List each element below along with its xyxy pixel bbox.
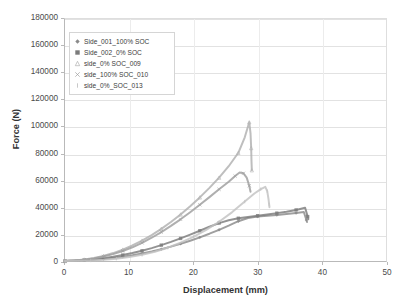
series-marker (121, 253, 124, 256)
legend-item-label: side_0%_SOC_013 (84, 81, 143, 90)
y-axis-tick-label: 140000 (2, 67, 58, 76)
series-line (65, 173, 251, 261)
x-axis-tick-label: 20 (178, 268, 208, 277)
series-line (65, 122, 252, 261)
x-axis-tick-mark (193, 262, 194, 265)
x-axis-tick-label: 0 (49, 268, 79, 277)
diamond-marker-icon (73, 37, 82, 46)
series-marker (275, 211, 278, 214)
y-axis-tick-label: 40000 (2, 203, 58, 212)
series-curve (63, 172, 251, 263)
y-axis-title: Force (N) (11, 89, 21, 169)
square-marker-icon (73, 48, 82, 57)
x-axis-title: Displacement (mm) (64, 285, 387, 295)
legend-item-label: Side_002_0% SOC (84, 48, 142, 57)
legend-item[interactable]: side_0% SOC_009 (73, 58, 170, 69)
x-axis-tick-mark (129, 262, 130, 265)
series-marker (294, 208, 297, 211)
x-axis-tick-label: 40 (307, 268, 337, 277)
x-axis-tick-mark (387, 262, 388, 265)
y-axis-tick-label: 20000 (2, 230, 58, 239)
series-marker (306, 215, 309, 218)
series-marker (140, 249, 143, 252)
series-marker (294, 211, 297, 214)
series-marker (237, 217, 240, 220)
x-axis-tick-mark (322, 262, 323, 265)
force-displacement-chart: 0200004000060000800001000001200001400001… (0, 0, 403, 308)
cross-marker-icon (73, 70, 82, 79)
x-axis-tick-label: 10 (114, 268, 144, 277)
series-marker (256, 214, 259, 217)
legend-item[interactable]: Side_001_100% SOC (73, 36, 170, 47)
legend-item[interactable]: side_0%_SOC_013 (73, 80, 170, 91)
legend-item-label: side_0% SOC_009 (84, 59, 141, 68)
legend-item-label: side_100% SOC_010 (84, 70, 148, 79)
x-axis-tick-label: 50 (372, 268, 402, 277)
series-marker (179, 237, 182, 240)
x-axis-tick-label: 30 (243, 268, 273, 277)
triangle-marker-icon (73, 59, 82, 68)
legend-item[interactable]: Side_002_0% SOC (73, 47, 170, 58)
y-axis-tick-label: 160000 (2, 40, 58, 49)
x-axis-tick-mark (258, 262, 259, 265)
legend-item-label: Side_001_100% SOC (84, 37, 149, 46)
legend-item[interactable]: side_100% SOC_010 (73, 69, 170, 80)
y-axis-tick-label: 0 (2, 257, 58, 266)
y-axis-tick-label: 60000 (2, 176, 58, 185)
series-marker (160, 243, 163, 246)
bar-marker-icon (73, 81, 82, 90)
chart-legend: Side_001_100% SOCSide_002_0% SOCside_0% … (69, 32, 175, 95)
y-axis-tick-label: 180000 (2, 13, 58, 22)
series-curve (63, 121, 253, 263)
